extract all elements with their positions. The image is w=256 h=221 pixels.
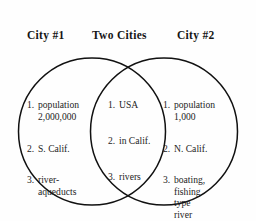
list-item-number: 3. — [163, 174, 174, 185]
list-item-number: 3. — [108, 171, 119, 182]
list-item-number: 1. — [163, 99, 174, 110]
list-item: 1.population 2,000,000 — [27, 88, 101, 122]
list-item-text: in Calif. — [119, 135, 150, 146]
list-item: 3.river- aqueducts — [27, 163, 101, 197]
list-item-text: USA — [119, 99, 138, 110]
list-item: 1.population 1,000 — [163, 88, 235, 122]
list-item-text: N. Calif. — [174, 143, 207, 154]
region-left-city-1-only: 1.population 2,000,000 2.S. Calif. 3.riv… — [27, 88, 101, 197]
list-item: 2.in Calif. — [108, 124, 154, 147]
list-item: 2.S. Calif. — [27, 131, 101, 154]
region-center-overlap: 1.USA 2.in Calif. 3.rivers — [108, 88, 154, 195]
list-item-number: 1. — [108, 99, 119, 110]
list-item-text: S. Calif. — [38, 143, 70, 154]
list-item: 1.USA — [108, 88, 154, 111]
list-item-text: river- aqueducts — [38, 174, 76, 197]
list-item-text: population 1,000 — [174, 99, 215, 122]
list-item: 2.N. Calif. — [163, 131, 235, 154]
list-item-number: 2. — [108, 135, 119, 146]
list-item-number: 2. — [163, 143, 174, 154]
list-item-number: 2. — [27, 143, 38, 154]
venn-diagram-page: City #1 Two Cities City #2 1.population … — [0, 0, 256, 221]
list-item-number: 1. — [27, 99, 38, 110]
list-item-text: population 2,000,000 — [38, 99, 79, 122]
list-item-text: boating, fishing type river — [174, 174, 205, 220]
list-item-number: 3. — [27, 174, 38, 185]
list-item-text: rivers — [119, 171, 141, 182]
region-right-city-2-only: 1.population 1,000 2.N. Calif. 3.boating… — [163, 88, 235, 221]
list-item: 3.boating, fishing type river — [163, 163, 235, 220]
list-item: 3.rivers — [108, 160, 154, 183]
